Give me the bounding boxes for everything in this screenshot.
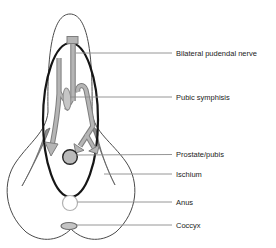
label-coccyx: Coccyx [176, 221, 201, 230]
pudendal-nerve-cap [67, 37, 78, 44]
nerve-arrowhead-left [45, 142, 58, 156]
leader-line-prostate [76, 155, 172, 156]
anatomy-figure: Bilateral pudendal nerve Pubic symphisis… [0, 0, 276, 248]
label-bilateral-pudendal-nerve: Bilateral pudendal nerve [176, 49, 257, 58]
prostate-circle [63, 150, 78, 165]
diagram-canvas: Bilateral pudendal nerve Pubic symphisis… [0, 0, 276, 248]
pubic-symphysis-shape [62, 88, 71, 110]
label-pubic-symphysis: Pubic symphisis [176, 93, 230, 102]
coccyx-shape [61, 223, 77, 230]
label-anus: Anus [176, 198, 193, 207]
label-ischium: Ischium [176, 170, 202, 179]
labels: Bilateral pudendal nerve Pubic symphisis… [176, 49, 257, 230]
anus-circle [63, 196, 78, 211]
label-prostate-pubis: Prostate/pubis [176, 150, 224, 159]
